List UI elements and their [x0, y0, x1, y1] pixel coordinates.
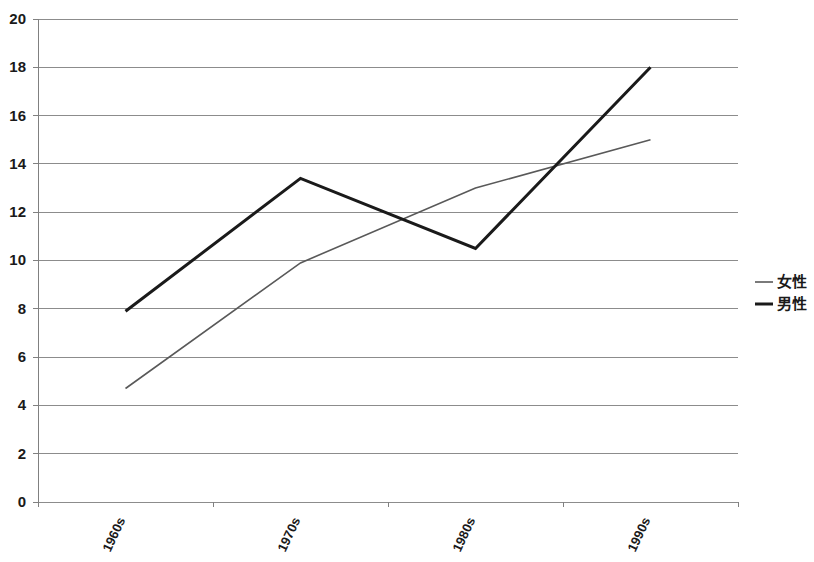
y-tick-label: 18 — [9, 58, 26, 75]
x-tick-label: 1980s — [449, 515, 478, 554]
y-tick-label: 16 — [9, 107, 26, 124]
x-tick-label: 1990s — [624, 515, 653, 554]
legend: 女性男性 — [755, 273, 807, 312]
y-tick-label: 4 — [18, 396, 27, 413]
chart-container: 02468101214161820 1960s1970s1980s1990s 女… — [0, 0, 814, 562]
series-line-2 — [126, 67, 651, 311]
y-tick-label: 8 — [18, 300, 26, 317]
y-tick-label: 2 — [18, 445, 26, 462]
line-chart: 02468101214161820 1960s1970s1980s1990s 女… — [0, 0, 814, 562]
x-tick-label: 1970s — [274, 515, 303, 554]
legend-label: 女性 — [777, 273, 807, 290]
y-tick-label: 6 — [18, 348, 26, 365]
y-tick-label: 20 — [9, 10, 26, 27]
ytick-labels-group: 02468101214161820 — [9, 10, 26, 510]
series-line-1 — [126, 140, 651, 389]
y-tick-label: 12 — [9, 203, 26, 220]
y-tick-label: 10 — [9, 251, 26, 268]
xaxis-ticks-group — [38, 502, 738, 507]
xtick-labels-group: 1960s1970s1980s1990s — [99, 515, 653, 554]
y-tick-label: 0 — [18, 493, 26, 510]
x-tick-label: 1960s — [99, 515, 128, 554]
y-tick-label: 14 — [9, 155, 26, 172]
gridlines-group — [38, 19, 738, 502]
legend-label: 男性 — [777, 295, 807, 312]
